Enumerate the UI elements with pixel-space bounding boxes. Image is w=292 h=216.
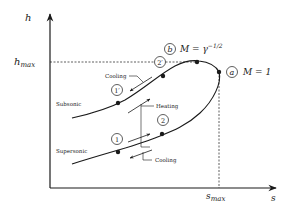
x-axis-label: s — [271, 193, 276, 203]
rayleigh-line-diagram: h s hmax smax b M = γ−1/2 a M = 1 2′ 1′ … — [0, 0, 292, 216]
cooling-top-label: Cooling — [105, 73, 127, 80]
heating-label: Heating — [156, 103, 179, 110]
label-b-mach: M = γ−1/2 — [179, 42, 223, 54]
svg-text:a: a — [230, 68, 235, 77]
label-2: 2 — [158, 115, 169, 126]
label-a: a — [227, 67, 238, 78]
svg-text:2: 2 — [161, 117, 165, 125]
point-1p-marker — [116, 101, 120, 105]
label-2p: 2′ — [155, 57, 166, 68]
point-2p-marker — [161, 74, 165, 78]
y-axis-label: h — [25, 12, 31, 23]
svg-text:b: b — [167, 45, 172, 54]
point-b-marker — [195, 60, 199, 64]
supersonic-label: Supersonic — [56, 148, 87, 155]
label-a-mach: M = 1 — [242, 67, 271, 77]
supersonic-cooling-arrow — [130, 150, 152, 158]
label-1: 1 — [112, 134, 123, 145]
s-max-label: smax — [206, 191, 225, 203]
label-1p: 1′ — [112, 85, 123, 96]
label-b: b — [165, 44, 176, 55]
point-1-marker — [116, 150, 120, 154]
subsonic-label: Subsonic — [56, 101, 81, 107]
h-max-label: hmax — [14, 56, 35, 69]
cooling-bottom-label: Cooling — [155, 157, 177, 164]
svg-text:1: 1 — [115, 136, 119, 144]
point-2-marker — [160, 132, 164, 136]
svg-text:2′: 2′ — [157, 59, 163, 67]
cooling-top-leader — [129, 76, 143, 82]
point-a-marker — [217, 70, 221, 74]
rayleigh-curve — [72, 61, 220, 164]
svg-text:1′: 1′ — [114, 87, 120, 95]
